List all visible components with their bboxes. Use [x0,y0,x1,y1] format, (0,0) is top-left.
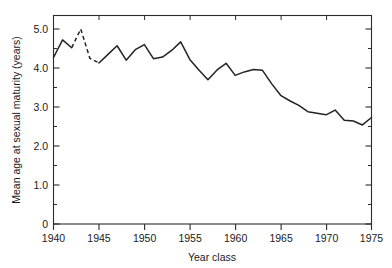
y-axis-right-ticks [366,29,372,224]
x-tick-label-1975: 1975 [360,232,384,244]
y-tick-label-5: 5.0 [33,23,48,35]
x-tick-label-1940: 1940 [42,232,66,244]
x-tick-label-1970: 1970 [315,232,339,244]
data-line-dashed-interpolated [72,29,99,63]
x-tick-label-1945: 1945 [87,232,111,244]
y-tick-label-4: 4.0 [33,62,48,74]
plot-frame [54,16,372,225]
y-tick-label-2: 2.0 [33,140,48,152]
x-axis-title: Year class [188,251,236,263]
x-tick-label-1950: 1950 [133,232,157,244]
data-line-solid-main [99,42,372,125]
y-axis-title: Mean age at sexual maturity (years) [10,36,22,204]
x-tick-label-1960: 1960 [224,232,248,244]
x-tick-labels: 1940 1945 1950 1955 1960 1965 1970 1975 [42,232,384,244]
chart-figure: 0 1.0 2.0 3.0 4.0 5.0 1940 1945 1950 195… [0,0,392,268]
x-tick-label-1965: 1965 [269,232,293,244]
x-axis-top-ticks [99,16,327,21]
y-axis-ticks [54,29,60,224]
y-tick-label-3: 3.0 [33,101,48,113]
data-series-group [54,29,372,125]
line-chart: 0 1.0 2.0 3.0 4.0 5.0 1940 1945 1950 195… [0,0,392,268]
x-tick-label-1955: 1955 [178,232,202,244]
y-tick-label-1: 1.0 [33,179,48,191]
y-tick-labels: 0 1.0 2.0 3.0 4.0 5.0 [33,23,48,230]
y-tick-label-0: 0 [42,218,48,230]
x-axis-ticks [54,224,372,230]
